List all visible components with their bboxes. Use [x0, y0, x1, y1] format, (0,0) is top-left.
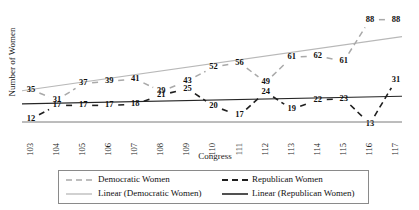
series-democratic-path-segment — [349, 27, 366, 53]
legend: Democratic WomenRepublican WomenLinear (… — [66, 174, 355, 198]
series-democratic-path-segment — [92, 82, 100, 83]
series-republican-path-segment — [300, 103, 309, 106]
data-label-democratic: 61 — [287, 51, 296, 61]
data-label-republican: 31 — [392, 74, 401, 84]
legend-label[interactable]: Democratic Women — [98, 174, 170, 184]
data-label-republican: 12 — [27, 113, 36, 123]
data-label-democratic: 35 — [27, 84, 36, 94]
x-tick-label: 103 — [25, 143, 35, 156]
chart-container: Number of Women 353137394139435256496162… — [0, 0, 419, 210]
x-tick-label: 112 — [260, 143, 270, 155]
data-label-republican: 17 — [105, 99, 114, 109]
legend-label[interactable]: Republican Women — [252, 174, 323, 184]
x-tick-label: 115 — [338, 143, 348, 155]
data-label-democratic: 56 — [235, 57, 244, 67]
chart-canvas: Number of Women 353137394139435256496162… — [0, 0, 419, 210]
data-label-republican: 23 — [340, 93, 349, 103]
data-label-republican: 17 — [235, 109, 244, 119]
data-label-republican: 22 — [314, 94, 323, 104]
series-democratic-path-segment — [272, 63, 285, 76]
series-republican-path-segment — [375, 88, 392, 116]
data-label-democratic: 41 — [131, 73, 140, 83]
series-republican-path-segment — [350, 105, 363, 118]
x-tick-label: 116 — [364, 143, 374, 155]
data-label-democratic: 88 — [392, 14, 401, 24]
series-democratic-path-segment — [170, 84, 179, 88]
data-label-republican: 17 — [53, 99, 62, 109]
data-label-democratic: 61 — [340, 55, 349, 65]
series-democratic-path-segment — [195, 71, 205, 76]
series-democratic-path-segment — [65, 88, 76, 95]
series-democratic-path-segment — [327, 58, 335, 60]
data-label-republican: 24 — [261, 86, 270, 96]
x-tick-label: 113 — [286, 143, 296, 155]
data-label-republican: 20 — [209, 100, 218, 110]
data-labels-democratic: 353137394139435256496162618888 — [27, 14, 401, 104]
x-tick-label: 104 — [51, 142, 61, 156]
data-label-republican: 25 — [183, 83, 192, 93]
legend-label[interactable]: Linear (Republican Women) — [252, 188, 355, 198]
data-label-democratic: 39 — [105, 75, 114, 85]
x-tick-label: 114 — [312, 142, 322, 155]
series-democratic-path-segment — [222, 64, 230, 65]
series-democratic-path-segment — [247, 68, 259, 77]
series-democratic-women — [39, 20, 387, 97]
data-label-republican: 17 — [79, 99, 88, 109]
data-label-democratic: 88 — [366, 14, 375, 24]
series-republican-path-segment — [273, 97, 284, 104]
x-axis-title: Congress — [198, 151, 232, 161]
x-tick-label: 111 — [234, 143, 244, 155]
data-label-democratic: 52 — [209, 61, 218, 71]
series-republican-path-segment — [222, 109, 231, 112]
data-label-democratic: 62 — [314, 50, 323, 60]
x-tick-label: 108 — [155, 143, 165, 156]
series-democratic-path-segment — [143, 83, 153, 88]
series-democratic-path-segment — [118, 80, 126, 81]
x-tick-label: 107 — [129, 143, 139, 156]
x-tick-label: 109 — [181, 143, 191, 156]
series-republican-path-segment — [39, 110, 49, 115]
data-label-republican: 18 — [131, 98, 140, 108]
legend-label[interactable]: Linear (Democratic Women) — [98, 188, 202, 198]
series-democratic-path-segment — [39, 93, 48, 97]
series-republican-path-segment — [170, 91, 179, 93]
data-label-democratic: 37 — [79, 77, 88, 87]
y-axis-title: Number of Women — [7, 27, 17, 97]
data-label-republican: 13 — [366, 118, 375, 128]
data-label-republican: 21 — [157, 89, 166, 99]
x-tick-label: 105 — [77, 143, 87, 156]
x-tick-label: 117 — [390, 143, 400, 155]
x-tick-label: 106 — [103, 143, 113, 156]
data-label-republican: 19 — [287, 103, 296, 113]
